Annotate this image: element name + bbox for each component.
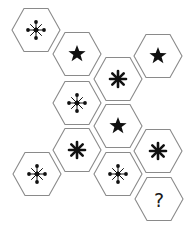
question-mark: ? <box>154 189 164 211</box>
hexagon-tile-11-answer: ? <box>135 178 183 221</box>
hexagon-tile-3 <box>134 35 182 78</box>
asterisk-icon <box>69 142 85 158</box>
hexagon-tile-4 <box>94 58 142 101</box>
hexagon-tile-5 <box>53 82 101 125</box>
hexagon-tile-7 <box>53 129 101 172</box>
hexagon-tile-8 <box>134 130 182 173</box>
hexagon-tile-1 <box>12 9 60 52</box>
asterisk-icon <box>150 143 166 159</box>
hexagon-tile-10 <box>94 153 142 196</box>
hexagon-tile-6 <box>94 105 142 148</box>
hexagon-tile-2 <box>53 33 101 76</box>
hexagon-puzzle: ? <box>0 0 190 226</box>
hexagon-tile-9 <box>13 153 61 196</box>
asterisk-icon <box>110 71 126 87</box>
